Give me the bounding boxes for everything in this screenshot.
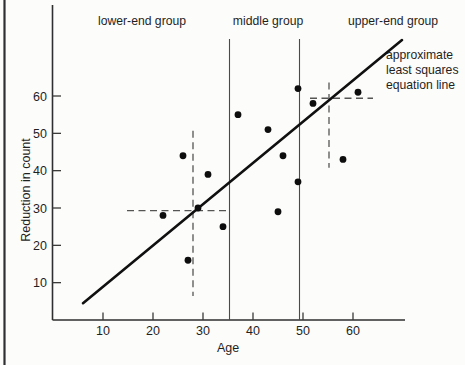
annotation-line-1: approximate <box>386 48 453 62</box>
x-tick-label: 20 <box>146 324 160 338</box>
y-axis-ticks: 102030405060 <box>33 90 61 291</box>
fit-line-annotation: approximate least squares equation line <box>386 48 459 92</box>
data-point <box>295 178 302 185</box>
annotation-line-3: equation line <box>386 78 455 92</box>
group-boundary-lines <box>230 39 300 320</box>
data-point <box>295 85 302 92</box>
data-point <box>280 152 287 159</box>
data-point <box>340 156 347 163</box>
group-label-middle: middle group <box>233 14 304 28</box>
group-labels: lower-end group middle group upper-end g… <box>98 14 438 28</box>
data-point <box>220 223 227 230</box>
data-point <box>160 212 167 219</box>
x-tick-label: 30 <box>196 324 210 338</box>
y-tick-label: 50 <box>33 127 47 141</box>
x-axis-ticks: 102030405060 <box>96 313 360 339</box>
y-axis: 102030405060 <box>33 5 61 320</box>
data-point <box>185 257 192 264</box>
data-point <box>195 205 202 212</box>
median-cross-lines <box>127 83 373 297</box>
y-axis-title: Reduction in count <box>19 138 33 242</box>
y-tick-label: 30 <box>33 202 47 216</box>
chart-canvas: 102030405060 102030405060 lower-end grou… <box>0 0 465 365</box>
x-tick-label: 50 <box>296 324 310 338</box>
y-tick-label: 40 <box>33 164 47 178</box>
x-tick-label: 60 <box>346 324 360 338</box>
group-label-upper: upper-end group <box>348 14 438 28</box>
data-point <box>235 111 242 118</box>
data-point <box>275 208 282 215</box>
x-axis-title: Age <box>217 341 239 355</box>
annotation-line-2: least squares <box>386 63 459 77</box>
x-axis: 102030405060 <box>53 313 406 339</box>
x-tick-label: 10 <box>96 324 110 338</box>
y-tick-label: 60 <box>33 90 47 104</box>
least-squares-line-segment <box>83 40 402 303</box>
y-tick-label: 10 <box>33 276 47 290</box>
data-point <box>355 89 362 96</box>
data-point <box>265 126 272 133</box>
y-tick-label: 20 <box>33 239 47 253</box>
scatter-plot-figure: 102030405060 102030405060 lower-end grou… <box>0 0 465 365</box>
group-label-lower: lower-end group <box>98 14 186 28</box>
scatter-points <box>160 85 362 264</box>
x-tick-label: 40 <box>246 324 260 338</box>
data-point <box>205 171 212 178</box>
data-point <box>180 152 187 159</box>
least-squares-line <box>83 40 402 303</box>
data-point <box>310 100 317 107</box>
